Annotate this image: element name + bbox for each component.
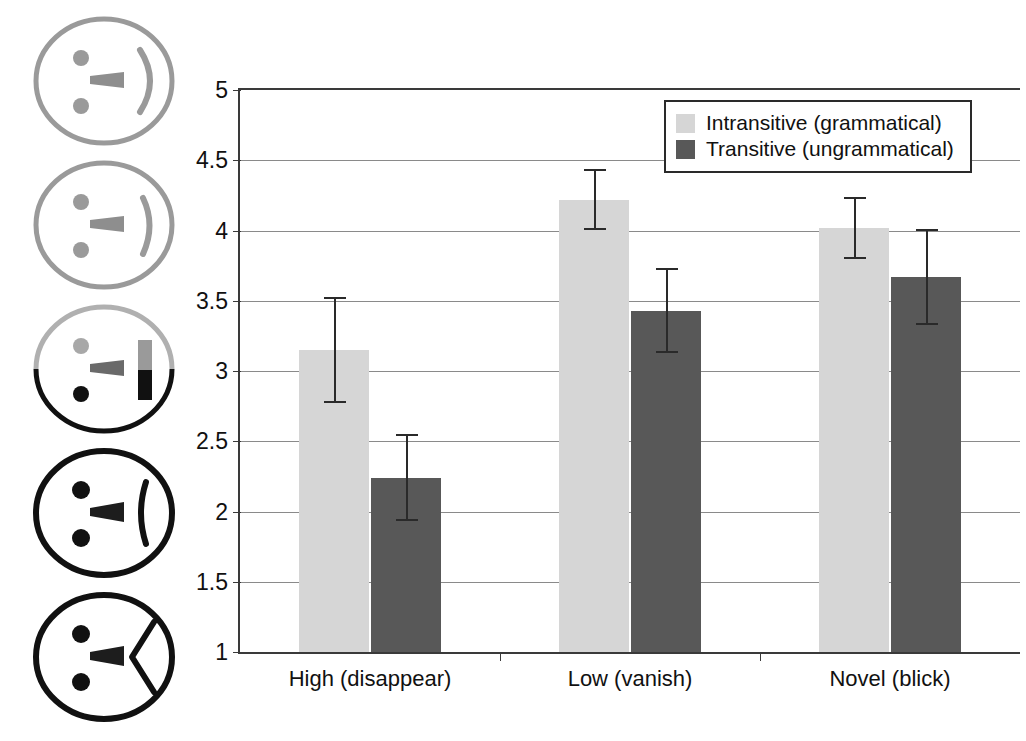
x-axis-label: High (disappear): [289, 666, 452, 692]
error-bar: [854, 197, 856, 259]
x-axis-label: Novel (blick): [829, 666, 950, 692]
error-bar: [334, 297, 336, 404]
legend-swatch-light: [676, 114, 695, 133]
y-tick-mark: [233, 582, 241, 583]
legend-swatch-dark: [676, 140, 695, 159]
gridline: [240, 231, 1020, 232]
y-tick-mark: [233, 652, 241, 653]
y-tick-label: 2.5: [196, 430, 228, 453]
error-bar-cap-bottom: [324, 401, 346, 403]
error-bar-cap-bottom: [656, 351, 678, 353]
y-tick-mark: [233, 301, 241, 302]
y-tick-mark: [233, 231, 241, 232]
face-happy-light-1: [28, 14, 180, 148]
y-tick-mark: [233, 371, 241, 372]
error-bar: [406, 434, 408, 521]
y-tick-mark: [233, 441, 241, 442]
y-tick-label: 1: [215, 641, 228, 664]
x-axis-label: Low (vanish): [568, 666, 693, 692]
error-bar: [594, 169, 596, 231]
chart-legend: Intransitive (grammatical) Transitive (u…: [664, 100, 972, 173]
y-tick-mark: [233, 90, 241, 91]
legend-label-transitive: Transitive (ungrammatical): [706, 137, 954, 161]
error-bar: [926, 229, 928, 325]
face-happy-light-2: [28, 158, 180, 292]
y-tick-label: 2: [215, 500, 228, 523]
error-bar-cap-bottom: [916, 323, 938, 325]
frowning-face-icon: [28, 446, 180, 580]
error-bar-cap-bottom: [584, 228, 606, 230]
face-frown-dark-2: [28, 590, 180, 724]
y-tick-label: 3.5: [196, 289, 228, 312]
bar-transitive: [891, 277, 961, 652]
error-bar-cap-bottom: [396, 519, 418, 521]
error-bar-cap-top: [844, 197, 866, 199]
legend-item-intransitive: Intransitive (grammatical): [676, 111, 954, 135]
error-bar-cap-top: [324, 297, 346, 299]
error-bar-cap-top: [396, 434, 418, 436]
error-bar-cap-top: [584, 169, 606, 171]
y-tick-label: 5: [215, 79, 228, 102]
smiley-face-icon: [28, 158, 180, 292]
legend-label-intransitive: Intransitive (grammatical): [706, 111, 942, 135]
neutral-face-icon: [28, 302, 180, 436]
y-tick-label: 4.5: [196, 149, 228, 172]
legend-item-transitive: Transitive (ungrammatical): [676, 137, 954, 161]
face-frown-dark-1: [28, 446, 180, 580]
y-tick-mark: [233, 512, 241, 513]
y-tick-mark: [233, 160, 241, 161]
y-tick-label: 3: [215, 360, 228, 383]
bar-intransitive: [819, 228, 889, 652]
bar-intransitive: [559, 200, 629, 652]
error-bar-cap-bottom: [844, 257, 866, 259]
deep-frowning-face-icon: [28, 590, 180, 724]
error-bar-cap-top: [916, 229, 938, 231]
bar-chart: 11.522.533.544.55High (disappear)Low (va…: [196, 62, 1020, 702]
y-tick-label: 4: [215, 219, 228, 242]
x-tick-mark: [760, 652, 761, 661]
smiley-face-icon: [28, 14, 180, 148]
x-tick-mark: [500, 652, 501, 661]
y-tick-label: 1.5: [196, 570, 228, 593]
face-rating-scale: [28, 14, 188, 729]
chart-page: 11.522.533.544.55High (disappear)Low (va…: [0, 0, 1026, 741]
error-bar-cap-top: [656, 268, 678, 270]
face-neutral: [28, 302, 180, 436]
error-bar: [666, 268, 668, 352]
bar-transitive: [631, 311, 701, 652]
